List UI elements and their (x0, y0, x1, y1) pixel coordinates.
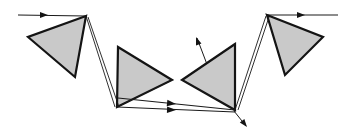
prism-ray-diagram (0, 0, 342, 137)
diagram-canvas (0, 0, 342, 137)
